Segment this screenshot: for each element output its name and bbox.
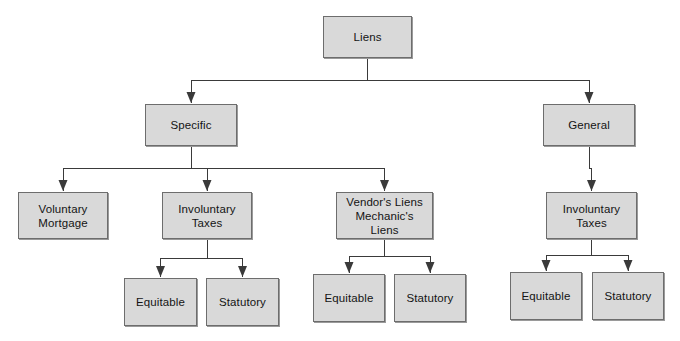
node-label: Specific	[167, 118, 214, 132]
node-gen-tax-statutory[interactable]: Statutory	[592, 272, 664, 320]
arrowhead-icon	[203, 180, 212, 191]
node-label: Equitable	[519, 289, 574, 303]
arrowhead-icon	[542, 260, 551, 271]
arrowhead-icon	[238, 266, 247, 277]
node-voluntary-mortgage[interactable]: Voluntary Mortgage	[18, 192, 108, 239]
arrowhead-icon	[426, 262, 435, 273]
node-label: Equitable	[322, 291, 377, 305]
node-label: Involuntary Taxes	[175, 202, 238, 230]
node-label: Statutory	[216, 295, 269, 309]
diagram-canvas: LiensSpecificGeneralVoluntary MortgageIn…	[0, 0, 680, 341]
arrowhead-icon	[187, 92, 196, 103]
node-label: Equitable	[133, 295, 188, 309]
node-vendor-mechanic-liens[interactable]: Vendor's Liens Mechanic's Liens	[336, 192, 433, 239]
arrowhead-icon	[587, 180, 596, 191]
node-label: Statutory	[602, 289, 655, 303]
node-gen-tax-equitable[interactable]: Equitable	[510, 272, 582, 320]
node-label: Vendor's Liens Mechanic's Liens	[337, 195, 432, 237]
node-spec-involuntary-taxes[interactable]: Involuntary Taxes	[162, 192, 252, 239]
arrowhead-icon	[380, 180, 389, 191]
node-vendor-equitable[interactable]: Equitable	[313, 274, 385, 322]
node-label: General	[565, 118, 613, 132]
arrowhead-icon	[624, 260, 633, 271]
node-label: Voluntary Mortgage	[35, 202, 90, 230]
node-spec-tax-equitable[interactable]: Equitable	[124, 278, 197, 326]
arrowhead-icon	[345, 262, 354, 273]
arrowhead-icon	[585, 92, 594, 103]
arrowhead-icon	[59, 180, 68, 191]
node-liens[interactable]: Liens	[323, 16, 412, 58]
node-specific[interactable]: Specific	[145, 104, 237, 146]
node-label: Involuntary Taxes	[560, 202, 623, 230]
arrowhead-icon	[156, 266, 165, 277]
node-gen-involuntary-taxes[interactable]: Involuntary Taxes	[546, 192, 637, 239]
node-label: Statutory	[404, 291, 457, 305]
node-general[interactable]: General	[543, 104, 635, 146]
node-label: Liens	[351, 30, 385, 44]
node-vendor-statutory[interactable]: Statutory	[394, 274, 466, 322]
node-spec-tax-statutory[interactable]: Statutory	[206, 278, 279, 326]
